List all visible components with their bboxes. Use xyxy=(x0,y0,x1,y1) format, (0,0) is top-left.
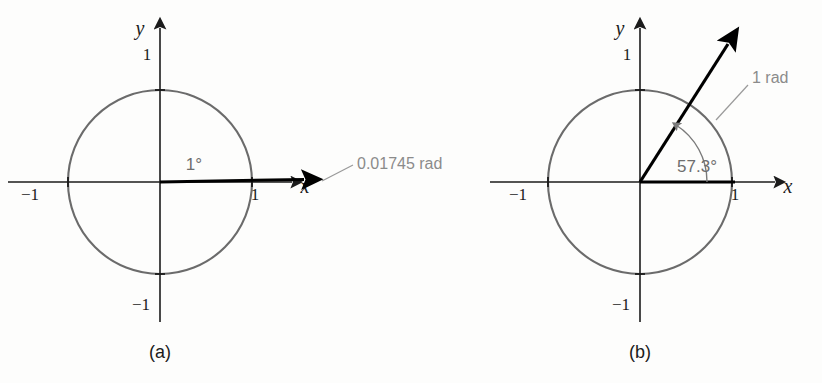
panel-b: −1 1 1 −1 x y 57.3° 1 rad (b) xyxy=(490,17,793,362)
y-label-negative-one: −1 xyxy=(612,295,630,314)
angle-degree-label: 1° xyxy=(186,155,202,174)
y-axis-name: y xyxy=(614,17,625,40)
callout-radian-label: 0.01745 rad xyxy=(357,155,442,172)
callout-leader-line xyxy=(716,85,748,120)
angle-degree-label: 57.3° xyxy=(677,157,717,176)
x-label-negative-one: −1 xyxy=(509,185,527,204)
panel-caption-b: (b) xyxy=(629,342,651,362)
callout-leader-line xyxy=(322,165,353,181)
unit-circle-figure: −1 1 1 −1 x y 1° 0.01745 rad (a) xyxy=(0,0,822,383)
y-label-one: 1 xyxy=(143,45,152,64)
panel-caption-a: (a) xyxy=(149,342,171,362)
x-label-one: 1 xyxy=(731,185,740,204)
y-axis-name: y xyxy=(134,17,145,40)
x-axis-name: x xyxy=(783,175,793,197)
y-label-one: 1 xyxy=(623,45,632,64)
figure-container: −1 1 1 −1 x y 1° 0.01745 rad (a) xyxy=(0,0,822,383)
callout-radian-label: 1 rad xyxy=(752,69,788,86)
x-label-negative-one: −1 xyxy=(21,185,39,204)
y-label-negative-one: −1 xyxy=(132,295,150,314)
panel-a: −1 1 1 −1 x y 1° 0.01745 rad (a) xyxy=(8,17,442,362)
x-label-one: 1 xyxy=(251,185,260,204)
